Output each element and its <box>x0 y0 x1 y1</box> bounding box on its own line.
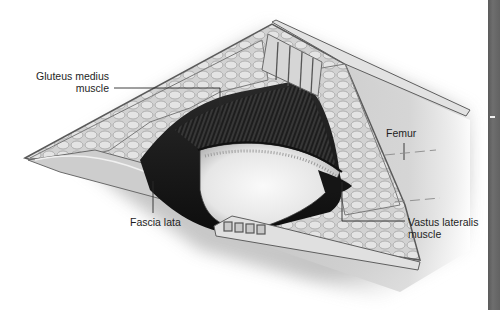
label-line: muscle <box>36 82 109 94</box>
page-edge-strip <box>488 0 500 310</box>
anatomical-illustration: Gluteus medius muscle Femur Fascia lata … <box>0 0 500 310</box>
page-edge-marker <box>490 116 495 118</box>
illustration-svg <box>0 0 500 310</box>
label-vastus-lateralis-muscle: Vastus lateralis muscle <box>408 216 478 240</box>
label-fascia-lata: Fascia lata <box>130 216 181 228</box>
label-line: muscle <box>408 228 478 240</box>
label-line: Vastus lateralis <box>408 216 478 228</box>
label-femur: Femur <box>386 127 416 139</box>
label-line: Gluteus medius <box>36 70 109 82</box>
label-line: Fascia lata <box>130 216 181 228</box>
label-line: Femur <box>386 127 416 139</box>
label-gluteus-medius-muscle: Gluteus medius muscle <box>36 70 109 94</box>
